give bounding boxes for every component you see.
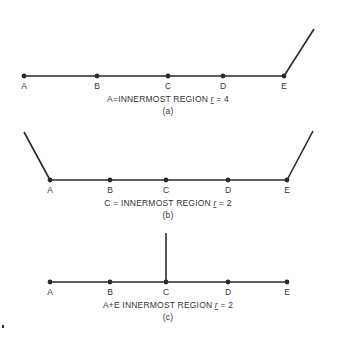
caption: A+E INNERMOST REGION r = 2 xyxy=(103,300,233,310)
speck-mark xyxy=(2,325,4,328)
branch-line xyxy=(287,131,313,180)
node-label-b: B xyxy=(94,81,100,91)
node-label-a: A xyxy=(21,81,27,91)
node-c xyxy=(164,280,169,285)
node-d xyxy=(226,178,231,183)
node-label-e: E xyxy=(284,287,290,297)
node-d xyxy=(221,74,226,79)
branch-line xyxy=(24,132,50,180)
node-e xyxy=(285,280,290,285)
node-label-d: D xyxy=(225,287,231,297)
node-label-e: E xyxy=(284,185,290,195)
node-a xyxy=(22,74,27,79)
node-label-a: A xyxy=(47,287,53,297)
node-label-b: B xyxy=(107,287,113,297)
node-c xyxy=(164,178,169,183)
panel-sublabel: (a) xyxy=(163,106,174,116)
node-label-c: C xyxy=(165,81,171,91)
node-b xyxy=(95,74,100,79)
node-d xyxy=(226,280,231,285)
caption: C = INNERMOST REGION r = 2 xyxy=(104,198,231,208)
node-label-a: A xyxy=(47,185,53,195)
node-label-b: B xyxy=(107,185,113,195)
node-a xyxy=(48,178,53,183)
branch-line xyxy=(284,29,314,76)
node-c xyxy=(166,74,171,79)
node-label-d: D xyxy=(225,185,231,195)
node-a xyxy=(48,280,53,285)
node-label-c: C xyxy=(163,185,169,195)
node-e xyxy=(282,74,287,79)
node-e xyxy=(285,178,290,183)
node-b xyxy=(108,178,113,183)
panel-sublabel: (b) xyxy=(163,210,174,220)
graph-diagram: ABCDEA=INNERMOST REGION r = 4(a)ABCDEC =… xyxy=(0,0,346,340)
node-b xyxy=(108,280,113,285)
node-label-e: E xyxy=(281,81,287,91)
panel-sublabel: (c) xyxy=(163,312,174,322)
node-label-d: D xyxy=(220,81,226,91)
caption: A=INNERMOST REGION r = 4 xyxy=(107,94,229,104)
node-label-c: C xyxy=(163,287,169,297)
